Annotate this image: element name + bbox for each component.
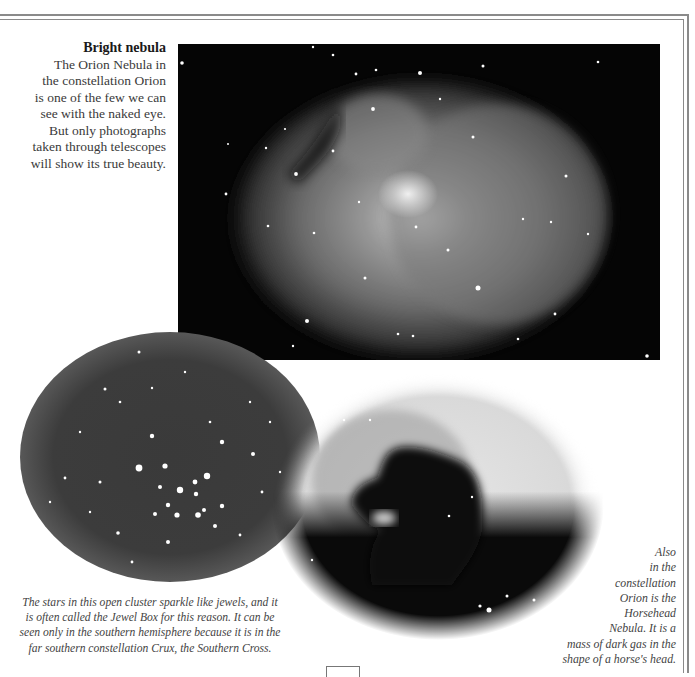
orion-caption: Bright nebula The Orion Nebula in the co… [0,40,166,172]
jewel-box-caption: The stars in this open cluster sparkle l… [14,595,286,656]
caption-line: is one of the few we can [0,90,166,107]
caption-line: the constellation Orion [0,73,166,90]
border-right-inner [683,19,684,673]
caption-line: Also [548,545,676,560]
caption-line: taken through telescopes [0,139,166,156]
caption-line: see with the naked eye. [0,106,166,123]
caption-line: mass of dark gas in the [548,637,676,652]
caption-line: shape of a horse's head. [548,652,676,667]
caption-line: Nebula. It is a [548,621,676,636]
caption-line: Horsehead [548,606,676,621]
caption-line: constellation [548,576,676,591]
caption-line: far southern constellation Crux, the Sou… [14,641,286,656]
caption-line: The stars in this open cluster sparkle l… [14,595,286,610]
orion-nebula-photo [178,44,660,360]
caption-line: is often called the Jewel Box for this r… [14,610,286,625]
horsehead-caption: Also in the constellation Orion is the H… [548,545,676,667]
border-right-outer [687,14,689,673]
border-top-inner [0,19,684,20]
caption-line: Orion is the [548,591,676,606]
caption-title: Bright nebula [0,40,166,57]
border-top-outer [0,14,689,16]
caption-line: The Orion Nebula in [0,57,166,74]
caption-line: But only photographs [0,123,166,140]
caption-line: in the [548,560,676,575]
page-number-box [326,666,360,677]
caption-line: will show its true beauty. [0,156,166,173]
caption-line: seen only in the southern hemisphere bec… [14,625,286,640]
orion-nebula-image [178,44,660,360]
